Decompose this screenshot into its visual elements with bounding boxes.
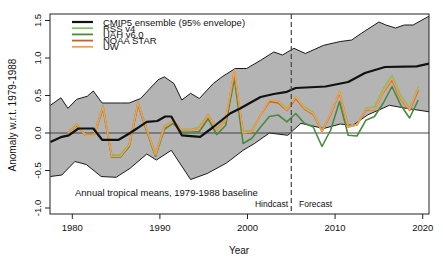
x-tick-label: 2010 <box>325 222 346 233</box>
chart: 19801990200020102020 -1.0-0.50.00.51.01.… <box>0 0 443 265</box>
y-tick-label: 1.0 <box>32 51 43 64</box>
y-tick-label: -1.0 <box>32 200 43 216</box>
y-tick-label: 1.5 <box>32 14 43 27</box>
annotation-baseline: Annual tropical means, 1979-1988 baselin… <box>75 187 258 198</box>
x-tick-label: 2000 <box>237 222 258 233</box>
hindcast-label: Hindcast <box>255 199 289 209</box>
y-axis: -1.0-0.50.00.51.01.5 <box>32 14 50 216</box>
legend-label: UW <box>103 41 119 52</box>
y-axis-label: Anomaly w.r.t. 1979-1988 <box>7 58 18 171</box>
x-tick-label: 1990 <box>149 222 170 233</box>
x-axis: 19801990200020102020 <box>62 214 434 233</box>
y-tick-label: 0.0 <box>32 126 43 139</box>
x-tick-label: 1980 <box>62 222 83 233</box>
x-axis-label: Year <box>229 245 250 256</box>
forecast-label: Forecast <box>299 199 333 209</box>
y-tick-label: 0.5 <box>32 89 43 102</box>
legend: CMIP5 ensemble (95% envelope)RSS v4UAH v… <box>72 17 245 53</box>
x-tick-label: 2020 <box>412 222 433 233</box>
y-tick-label: -0.5 <box>32 162 43 178</box>
